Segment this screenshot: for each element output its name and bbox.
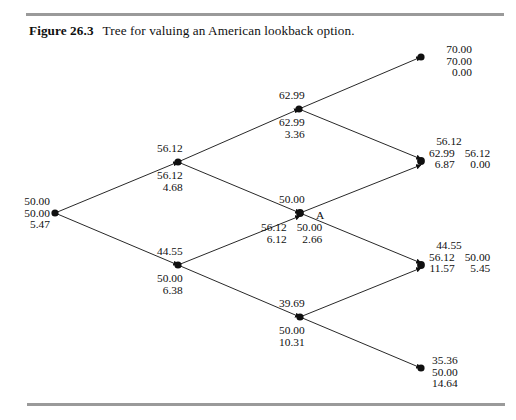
node-udd-option-value-2: 5.45 <box>465 263 491 275</box>
node-uud-option-value-2: 0.00 <box>465 159 491 171</box>
node-uu-stock-price: 62.99 <box>279 90 305 102</box>
edge-dd-ddd <box>300 317 421 368</box>
node-uu <box>295 105 302 112</box>
node-dd-labels: 50.00 10.31 <box>279 325 305 348</box>
edge-a-uud <box>300 165 421 213</box>
node-up-labels: 56.12 4.68 <box>157 170 183 193</box>
node-a-max-price-2: 50.00 <box>297 222 323 234</box>
node-uud-column-2: 56.12 0.00 <box>465 148 491 171</box>
node-a-stock-price: 50.00 <box>279 194 305 206</box>
node-udd-column-gap <box>455 252 465 275</box>
edge-dd-udd <box>300 268 421 317</box>
node-ddd-option-value: 14.64 <box>432 378 472 390</box>
edge-uu-uuu <box>299 57 421 109</box>
tree-edges <box>55 57 421 368</box>
node-root-stock-price: 50.00 <box>10 196 50 208</box>
node-a-column-1: 56.12 6.12 <box>261 222 287 245</box>
node-dd-max-price: 50.00 <box>279 325 305 337</box>
node-down-stock-price: 44.55 <box>157 246 183 258</box>
node-uuu-option-value: 0.00 <box>432 67 472 79</box>
node-root-labels: 50.00 50.00 5.47 <box>10 196 50 231</box>
node-uuu-stock-price: 70.00 <box>432 44 472 56</box>
node-ddd <box>417 364 424 371</box>
node-down-option-value: 6.38 <box>157 285 183 297</box>
node-udd-labels: 44.55 56.12 11.57 50.00 5.45 <box>429 240 490 275</box>
node-uud <box>417 157 425 165</box>
node-a-tag: A <box>316 210 324 222</box>
node-up <box>174 158 181 165</box>
node-udd <box>417 261 425 269</box>
node-uud-column-gap <box>455 148 465 171</box>
node-uud-columns: 62.99 6.87 56.12 0.00 <box>429 148 490 171</box>
node-a-option-value-2: 2.66 <box>297 234 323 246</box>
node-up-max-price: 56.12 <box>157 170 183 182</box>
node-udd-stock-price: 44.55 <box>429 240 469 252</box>
node-udd-column-2: 50.00 5.45 <box>465 252 491 275</box>
node-down-max-price: 50.00 <box>157 273 183 285</box>
node-root <box>51 209 58 216</box>
node-a <box>296 209 304 217</box>
node-uud-column-1: 62.99 6.87 <box>429 148 455 171</box>
node-a-column-2: 50.00 2.66 <box>297 222 323 245</box>
node-uud-stock-price: 56.12 <box>429 136 469 148</box>
tree-nodes <box>51 53 425 371</box>
node-uud-option-value-1: 6.87 <box>429 159 455 171</box>
node-down <box>174 261 181 268</box>
node-udd-columns: 56.12 11.57 50.00 5.45 <box>429 252 490 275</box>
node-a-option-value-1: 6.12 <box>261 234 287 246</box>
node-uu-option-value: 3.36 <box>279 129 305 141</box>
figure-page: Figure 26.3Tree for valuing an American … <box>0 0 516 420</box>
node-uud-labels: 56.12 62.99 6.87 56.12 0.00 <box>429 136 490 171</box>
node-a-labels: 56.12 6.12 50.00 2.66 <box>261 222 322 245</box>
node-dd-option-value: 10.31 <box>279 337 305 349</box>
node-uu-max-price: 62.99 <box>279 117 305 129</box>
node-dd-stock-price: 39.69 <box>279 298 305 310</box>
node-ddd-labels: 35.36 50.00 14.64 <box>432 355 472 390</box>
node-uuu <box>417 53 424 60</box>
node-a-max-price-1: 56.12 <box>261 222 287 234</box>
node-up-stock-price: 56.12 <box>157 143 183 155</box>
node-udd-column-1: 56.12 11.57 <box>429 252 455 275</box>
node-root-option-value: 5.47 <box>10 219 50 231</box>
node-dd <box>296 313 303 320</box>
node-down-labels: 50.00 6.38 <box>157 273 183 296</box>
node-uu-labels: 62.99 3.36 <box>279 117 305 140</box>
node-uuu-labels: 70.00 70.00 0.00 <box>432 44 472 79</box>
node-a-column-gap <box>287 222 297 245</box>
edge-uu-uud <box>299 109 421 159</box>
node-udd-option-value-1: 11.57 <box>429 263 455 275</box>
node-up-option-value: 4.68 <box>157 182 183 194</box>
node-ddd-stock-price: 35.36 <box>432 355 472 367</box>
